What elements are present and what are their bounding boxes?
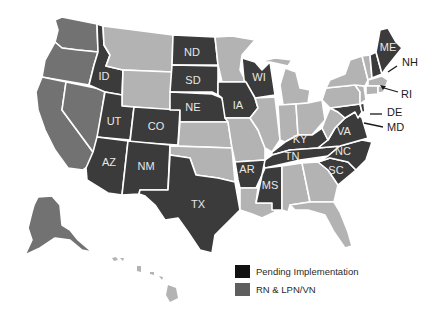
- state-ks[interactable]: [178, 122, 232, 148]
- label-tx: TX: [191, 198, 206, 210]
- state-ak[interactable]: [25, 196, 92, 255]
- leader-md: [364, 123, 383, 127]
- label-ne: NE: [185, 101, 200, 113]
- leader-nh: [388, 66, 397, 72]
- legend-label-pending: Pending Implementation: [256, 266, 358, 277]
- state-wy[interactable]: [122, 70, 172, 110]
- label-wi: WI: [252, 71, 265, 83]
- legend-item-pending: Pending Implementation: [235, 263, 358, 279]
- label-me: ME: [380, 41, 397, 53]
- label-tn: TN: [285, 150, 300, 162]
- label-ky: KY: [293, 133, 308, 145]
- state-ct[interactable]: [366, 86, 378, 95]
- label-va: VA: [337, 125, 352, 137]
- label-de: DE: [387, 106, 402, 118]
- label-id: ID: [99, 70, 110, 82]
- label-sd: SD: [185, 74, 200, 86]
- label-sc: SC: [328, 164, 343, 176]
- label-ri: RI: [401, 88, 412, 100]
- legend: Pending Implementation RN & LPN/VN: [235, 263, 358, 299]
- legend-swatch-rn-lpn-vn: [235, 283, 250, 296]
- label-nc: NC: [335, 145, 351, 157]
- legend-item-rn-lpn-vn: RN & LPN/VN: [235, 281, 358, 297]
- label-ar: AR: [239, 163, 254, 175]
- label-nm: NM: [137, 160, 154, 172]
- leader-ri: [384, 88, 398, 92]
- label-ut: UT: [107, 115, 122, 127]
- legend-swatch-pending: [235, 265, 250, 278]
- label-nh: NH: [402, 56, 418, 68]
- state-ny[interactable]: [326, 56, 368, 88]
- label-ms: MS: [262, 179, 279, 191]
- label-nd: ND: [184, 46, 200, 58]
- us-map: ND SD NE ID UT CO AZ NM TX IA WI AR MS T…: [0, 0, 440, 313]
- state-mt[interactable]: [103, 26, 173, 72]
- us-map-svg: ND SD NE ID UT CO AZ NM TX IA WI AR MS T…: [0, 0, 440, 313]
- label-ia: IA: [233, 99, 244, 111]
- legend-label-rn-lpn-vn: RN & LPN/VN: [256, 284, 316, 295]
- label-md: MD: [387, 121, 404, 133]
- label-az: AZ: [102, 156, 116, 168]
- state-mi[interactable]: [280, 68, 310, 105]
- state-fl[interactable]: [290, 202, 352, 248]
- state-mi-up[interactable]: [258, 58, 292, 66]
- state-hi[interactable]: [112, 257, 178, 302]
- label-co: CO: [148, 120, 165, 132]
